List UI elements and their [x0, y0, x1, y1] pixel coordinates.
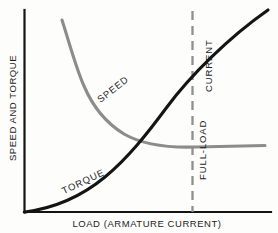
motor-characteristic-chart: SPEED AND TORQUE LOAD (ARMATURE CURRENT)… — [0, 0, 278, 233]
y-axis-title: SPEED AND TORQUE — [6, 13, 20, 203]
full-load-line-label: FULL-LOAD — [197, 120, 208, 180]
current-curve-label: CURRENT — [203, 39, 214, 92]
x-axis-title: LOAD (ARMATURE CURRENT) — [24, 218, 270, 230]
chart-plot-area — [0, 0, 278, 233]
speed-curve — [62, 20, 265, 147]
torque-curve — [25, 10, 268, 212]
